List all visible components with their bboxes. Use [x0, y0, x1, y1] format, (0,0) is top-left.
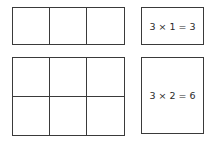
grid-3x2: [12, 57, 125, 136]
grid-3x1: [12, 7, 125, 45]
equation-box-1: 3 × 1 = 3: [141, 7, 204, 45]
grid-cell: [87, 8, 124, 44]
grid-cell: [87, 97, 124, 136]
grid-cell: [87, 58, 124, 97]
equation-label: 3 × 1 = 3: [149, 21, 195, 32]
grid-cell: [13, 8, 50, 44]
grid-cell: [50, 8, 87, 44]
grid-cell: [13, 58, 50, 97]
equation-box-2: 3 × 2 = 6: [141, 57, 204, 134]
equation-label: 3 × 2 = 6: [149, 90, 195, 101]
grid-cell: [50, 97, 87, 136]
grid-cell: [13, 97, 50, 136]
grid-cell: [50, 58, 87, 97]
